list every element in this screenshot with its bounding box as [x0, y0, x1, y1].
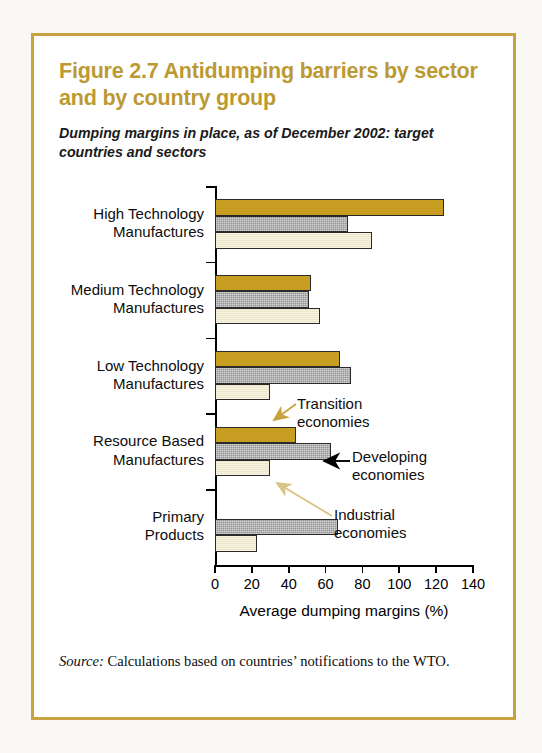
- source-label: Source:: [59, 653, 104, 669]
- y-tick: [206, 413, 215, 415]
- bar-industrial: [215, 535, 257, 552]
- category-label: Resource Based Manufactures: [34, 432, 204, 469]
- y-tick: [206, 262, 215, 264]
- x-tick-label: 120: [416, 576, 456, 592]
- x-tick: [398, 565, 400, 573]
- bar-industrial: [215, 308, 320, 325]
- category-label: High Technology Manufactures: [34, 205, 204, 242]
- category-label: Primary Products: [34, 508, 204, 545]
- x-tick-label: 40: [269, 576, 309, 592]
- bar-developing: [215, 216, 348, 233]
- y-tick: [206, 186, 215, 188]
- source-note: Source: Calculations based on countries’…: [59, 652, 484, 672]
- x-tick: [435, 565, 437, 573]
- source-text: Calculations based on countries’ notific…: [104, 653, 450, 669]
- y-tick: [206, 489, 215, 491]
- x-tick: [251, 565, 253, 573]
- bar-transition: [215, 199, 444, 216]
- x-tick: [214, 565, 216, 573]
- bar-developing: [215, 519, 338, 536]
- figure-frame: Figure 2.7 Antidumping barriers by secto…: [31, 33, 516, 720]
- bar-developing: [215, 367, 351, 384]
- page-background: Figure 2.7 Antidumping barriers by secto…: [0, 0, 542, 753]
- x-tick: [288, 565, 290, 573]
- bar-transition: [215, 427, 296, 444]
- x-tick: [362, 565, 364, 573]
- bar-transition: [215, 275, 311, 292]
- x-tick-label: 20: [232, 576, 272, 592]
- bar-developing: [215, 291, 309, 308]
- category-label: Low Technology Manufactures: [34, 357, 204, 394]
- x-axis-title: Average dumping margins (%): [154, 602, 534, 620]
- bar-industrial: [215, 460, 270, 477]
- figure-inner: Figure 2.7 Antidumping barriers by secto…: [34, 36, 513, 717]
- y-tick: [206, 338, 215, 340]
- x-tick: [472, 565, 474, 573]
- x-tick-label: 140: [453, 576, 493, 592]
- bar-developing: [215, 443, 331, 460]
- bar-chart: High Technology ManufacturesMedium Techn…: [34, 36, 513, 717]
- annotation-transition-economies: Transition economies: [297, 395, 370, 431]
- category-label: Medium Technology Manufactures: [34, 281, 204, 318]
- bar-industrial: [215, 232, 372, 249]
- x-tick-label: 80: [342, 576, 382, 592]
- x-tick: [325, 565, 327, 573]
- annotation-industrial-economies: Industrial economies: [334, 506, 407, 542]
- bar-industrial: [215, 384, 270, 401]
- x-tick-label: 60: [306, 576, 346, 592]
- annotation-developing-economies: Developing economies: [352, 448, 427, 484]
- x-tick-label: 100: [379, 576, 419, 592]
- x-tick-label: 0: [195, 576, 235, 592]
- bar-transition: [215, 351, 340, 368]
